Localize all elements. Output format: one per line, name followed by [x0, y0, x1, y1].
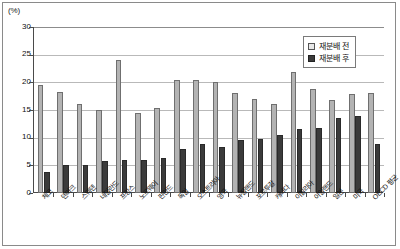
bar-before — [116, 60, 122, 193]
legend-item-before: 재분배 전 — [308, 40, 349, 52]
y-tick-label-20: 20 — [5, 78, 31, 86]
bar-before — [96, 110, 102, 193]
bar-before — [174, 80, 180, 193]
bar-before — [291, 72, 297, 193]
bar-before — [232, 93, 238, 193]
bar-group — [368, 27, 380, 193]
bar-group — [252, 27, 264, 193]
bar-after — [238, 140, 244, 193]
bar-after — [180, 149, 186, 193]
bar-group — [135, 27, 147, 193]
y-tick-label-15: 15 — [5, 106, 31, 114]
bar-after — [200, 144, 206, 193]
y-tick-label-0: 0 — [5, 189, 31, 197]
bar-group — [291, 27, 303, 193]
bar-group — [213, 27, 225, 193]
x-axis-labels: 체코덴마크스웨덴네덜란드프랑스노르웨이핀란드독일오스트리아영국뉴질랜드포르투갈캐… — [33, 193, 383, 247]
bar-group — [38, 27, 50, 193]
bar-before — [135, 113, 141, 193]
y-tick-label-10: 10 — [5, 133, 31, 141]
bar-group — [174, 27, 186, 193]
bar-after — [316, 128, 322, 193]
bar-before — [349, 94, 355, 193]
y-axis-unit-label: (%) — [8, 6, 20, 15]
bar-group — [193, 27, 205, 193]
bar-after — [336, 118, 342, 193]
bar-after — [258, 139, 264, 193]
legend-label-after: 재분배 후 — [319, 54, 349, 63]
chart-legend: 재분배 전 재분배 후 — [303, 36, 356, 68]
y-tick-label-30: 30 — [5, 23, 31, 31]
bar-group — [57, 27, 69, 193]
legend-swatch-after-icon — [308, 55, 315, 62]
bar-after — [219, 147, 225, 193]
bar-after — [355, 116, 361, 193]
y-tick-label-25: 25 — [5, 50, 31, 58]
legend-label-before: 재분배 전 — [319, 42, 349, 51]
bar-group — [271, 27, 283, 193]
bar-before — [77, 104, 83, 193]
bar-after — [297, 129, 303, 193]
legend-item-after: 재분배 후 — [308, 52, 349, 64]
bar-before — [38, 85, 44, 193]
bar-before — [193, 80, 199, 193]
legend-swatch-before-icon — [308, 43, 315, 50]
bar-after — [277, 135, 283, 193]
bar-before — [329, 100, 335, 194]
bar-after — [375, 144, 381, 193]
bar-group — [96, 27, 108, 193]
chart-container: (%) 30 25 20 15 10 5 0 체코덴마크스웨덴네덜란드프랑스노르… — [0, 0, 400, 249]
bar-group — [232, 27, 244, 193]
y-tick-label-5: 5 — [5, 161, 31, 169]
bar-group — [116, 27, 128, 193]
bar-before — [310, 89, 316, 193]
bar-group — [154, 27, 166, 193]
bar-group — [77, 27, 89, 193]
bar-before — [252, 99, 258, 193]
bar-before — [368, 93, 374, 193]
bar-before — [57, 92, 63, 193]
